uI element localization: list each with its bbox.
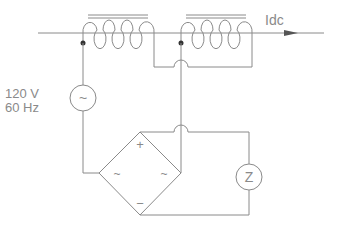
- inductor-l2: [181, 15, 252, 67]
- current-label: Idc: [265, 12, 284, 28]
- coil-interconnect-wire: [154, 60, 252, 67]
- dc-negative-wire: [140, 190, 249, 215]
- circuit-diagram: ~ 120 V 60 Hz + − ~ ~ Z Idc: [0, 0, 339, 228]
- bridge-plus-label: +: [136, 137, 144, 152]
- arrow-right-icon: [284, 30, 298, 36]
- bridge-ac-left-label: ~: [113, 167, 120, 181]
- bridge-minus-label: −: [136, 196, 144, 211]
- inductor-l1: [83, 15, 154, 67]
- source-voltage-label: 120 V: [5, 86, 39, 101]
- load-label: Z: [245, 169, 254, 185]
- ac-source-symbol: ~: [79, 90, 87, 106]
- source-frequency-label: 60 Hz: [5, 100, 39, 115]
- bridge-ac-right-label: ~: [160, 167, 167, 181]
- dc-positive-wire: [140, 125, 249, 164]
